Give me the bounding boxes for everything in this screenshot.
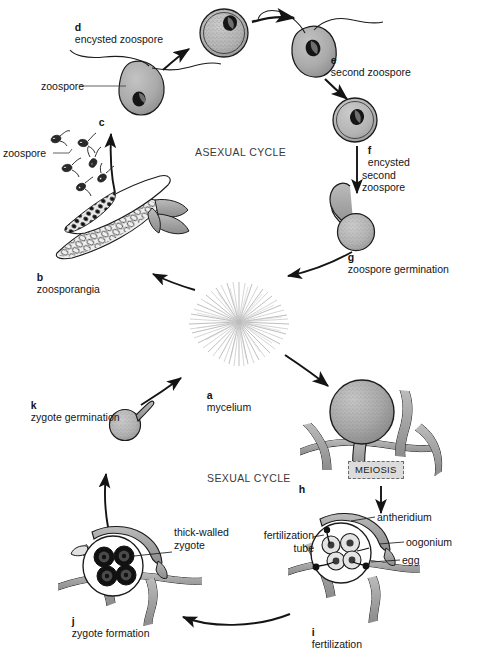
stage-c-letter: c (99, 116, 105, 128)
stage-i-text: fertilization (312, 638, 362, 650)
stage-j-label: j zygote formation (66, 602, 149, 640)
zoospore-c-callout-label: zoospore (41, 80, 84, 93)
stage-g-label: g zoospore germination (342, 238, 449, 276)
arrow-i-to-j (183, 614, 290, 625)
stage-k-text: zygote germination (31, 411, 120, 423)
fertilization-tube-label: fertilization tube (258, 529, 314, 554)
stage-i-label: i fertilization (306, 613, 362, 651)
stage-f-letter: f (368, 144, 374, 156)
arrow-b-to-c (111, 134, 115, 193)
stage-a-label: a mycelium (201, 376, 251, 414)
arrow-c-to-d (163, 49, 189, 70)
stage-g-text: zoospore germination (348, 263, 449, 275)
stage-e-letter: e (331, 54, 340, 66)
stage-i-letter: i (312, 626, 318, 638)
arrow-j-to-k (105, 474, 108, 527)
zoospore-swarm-figure (50, 131, 114, 196)
stage-c-label: c (93, 103, 105, 128)
asexual-cycle-label: ASEXUAL CYCLE (195, 146, 286, 158)
stage-h-letter: h (299, 483, 305, 495)
stage-a-text: mycelium (207, 401, 251, 413)
stage-d-letter: d (75, 21, 84, 33)
oogonium-label: oogonium (406, 536, 452, 549)
zoospore-swarm-leader (53, 149, 72, 153)
meiosis-process-box: MEIOSIS (348, 461, 404, 479)
stage-a-letter: a (207, 389, 216, 401)
sexual-cycle-label: SEXUAL CYCLE (207, 472, 291, 484)
stage-e-text: second zoospore (331, 66, 411, 78)
stage-b-text: zoosporangia (37, 283, 100, 295)
stage-d-label: d encysted zoospore (69, 8, 163, 46)
stage-k-label: k zygote germination (25, 386, 120, 424)
stage-d-text: encysted zoospore (75, 33, 163, 45)
egg-label: egg (402, 554, 420, 567)
arrow-a-to-b (153, 274, 195, 290)
thick-walled-zygote-label: thick-walled zygote (174, 526, 229, 551)
arrow-a-to-h (285, 355, 328, 386)
arrow-e-to-f (325, 79, 347, 99)
stage-a-mycelium-figure (189, 282, 289, 366)
stage-k-letter: k (31, 399, 40, 411)
stage-f-text: encysted second zoospore (362, 156, 410, 193)
stage-b-label: b zoosporangia (31, 258, 100, 296)
stage-j-letter: j (72, 615, 78, 627)
stage-j-text: zygote formation (72, 627, 150, 639)
stage-d-encysted-zoospore-figure (200, 9, 248, 57)
stage-h-label: h (293, 470, 305, 495)
arrow-k-to-a (141, 378, 181, 405)
stage-g-letter: g (348, 251, 357, 263)
stage-b-letter: b (37, 271, 46, 283)
antheridium-label: antheridium (377, 511, 432, 524)
stage-e-label: e second zoospore (325, 41, 411, 79)
zoospore-swarm-callout-label: zoospore (3, 147, 46, 160)
stage-f-label: f encysted second zoospore (362, 131, 410, 194)
